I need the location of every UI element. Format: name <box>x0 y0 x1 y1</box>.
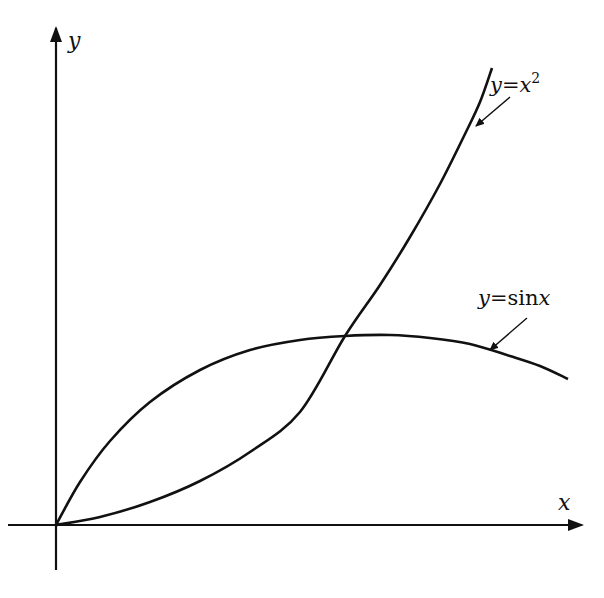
sine-label: y=sinx <box>477 286 551 310</box>
curve-x-squared <box>56 68 492 525</box>
curve-sine <box>56 335 568 525</box>
x-squared-label: y=x2 <box>489 70 540 97</box>
function-graph: x y y=x2 y=sinx <box>0 0 604 598</box>
y-axis-label: y <box>67 28 81 53</box>
sine-pointer-arrow <box>490 318 527 350</box>
x-axis-label: x <box>558 490 571 515</box>
